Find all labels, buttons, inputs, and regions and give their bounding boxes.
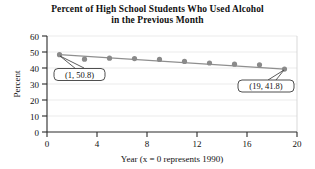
data-point [82, 57, 87, 62]
data-point [107, 56, 112, 61]
annotation-label-right: (19, 41.8) [249, 81, 282, 91]
x-axis-title: Year (x = 0 represents 1990) [121, 154, 223, 164]
y-tick-label-20: 20 [30, 96, 40, 106]
x-tick-label-16: 16 [243, 139, 253, 149]
x-tick-label-12: 12 [193, 139, 202, 149]
data-point [157, 57, 162, 62]
chart-container: Percent of High School Students Who Used… [0, 0, 315, 169]
annotation-label-left: (1, 50.8) [65, 70, 94, 80]
y-tick-label-60: 60 [30, 32, 40, 42]
data-point [232, 62, 237, 67]
y-tick-label-10: 10 [30, 112, 40, 122]
y-tick-label-50: 50 [30, 48, 40, 58]
y-axis-title: Percent [12, 70, 22, 97]
x-axis-ticks [47, 132, 297, 137]
y-tick-label-0: 0 [35, 128, 40, 138]
y-tick-label-30: 30 [30, 80, 40, 90]
x-tick-label-4: 4 [95, 139, 100, 149]
data-point [182, 59, 187, 64]
x-tick-label-0: 0 [45, 139, 50, 149]
data-point [257, 62, 262, 67]
y-axis-ticks [42, 36, 47, 132]
data-point [132, 56, 137, 61]
data-point [207, 60, 212, 65]
y-tick-label-40: 40 [30, 64, 40, 74]
x-tick-label-20: 20 [293, 139, 303, 149]
x-tick-label-8: 8 [145, 139, 150, 149]
chart-svg: 60 50 40 30 20 10 0 0 4 8 12 16 20 Perce… [0, 0, 315, 169]
